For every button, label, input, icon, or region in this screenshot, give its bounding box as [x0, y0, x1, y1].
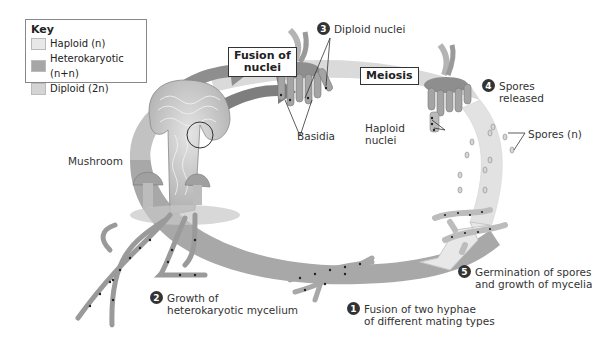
swatch-haploid	[31, 38, 46, 50]
step-1-line1: Fusion of two hyphae	[364, 303, 495, 315]
legend-title: Key	[31, 23, 141, 36]
step-2: 2 Growth of heterokaryotic mycelium	[150, 292, 298, 316]
swatch-heterokaryotic	[31, 60, 46, 72]
mushroom-label: Mushroom	[68, 155, 123, 167]
step-3: 3 Diploid nuclei	[317, 23, 405, 35]
step-5-line2: and growth of mycelia	[475, 278, 592, 290]
spores-label: Spores (n)	[528, 128, 582, 140]
meiosis-text: Meiosis	[366, 69, 413, 82]
step-4: 4 Spores released	[482, 80, 544, 104]
haploid-line1: Haploid	[365, 122, 405, 134]
legend-key: Key Haploid (n) Heterokaryotic (n+n) Dip…	[25, 19, 147, 83]
step-1: 1 Fusion of two hyphae of different mati…	[347, 303, 495, 327]
meiosis-label: Meiosis	[360, 67, 419, 85]
legend-label-haploid: Haploid (n)	[50, 36, 105, 51]
fusion-of-nuclei-label: Fusion of nuclei	[228, 47, 297, 77]
legend-item-diploid: Diploid (2n)	[31, 81, 141, 96]
step-1-line2: of different mating types	[364, 315, 495, 327]
step-4-line2: released	[499, 92, 544, 104]
step-5-line1: Germination of spores	[475, 266, 592, 278]
step-number-4-icon: 4	[482, 79, 495, 92]
step-number-1-icon: 1	[347, 302, 360, 315]
step-3-line1: Diploid nuclei	[334, 23, 405, 35]
fusion-line2: nuclei	[234, 62, 291, 74]
step-2-line2: heterokaryotic mycelium	[167, 304, 298, 316]
legend-item-haploid: Haploid (n)	[31, 36, 141, 51]
step-number-3-icon: 3	[317, 22, 330, 35]
basidia-cluster-haploid	[424, 45, 471, 132]
swatch-diploid	[31, 83, 46, 95]
legend-label-diploid: Diploid (2n)	[50, 81, 109, 96]
step-5: 5 Germination of spores and growth of my…	[458, 266, 592, 290]
basidia-label: Basidia	[297, 130, 335, 142]
legend-label-heterokaryotic: Heterokaryotic (n+n)	[50, 51, 141, 81]
step-number-2-icon: 2	[150, 291, 163, 304]
step-number-5-icon: 5	[458, 265, 471, 278]
haploid-line2: nuclei	[365, 134, 405, 146]
legend-item-heterokaryotic: Heterokaryotic (n+n)	[31, 51, 141, 81]
step-2-line1: Growth of	[167, 292, 298, 304]
haploid-nuclei-label: Haploid nuclei	[365, 122, 405, 146]
step-4-line1: Spores	[499, 80, 544, 92]
